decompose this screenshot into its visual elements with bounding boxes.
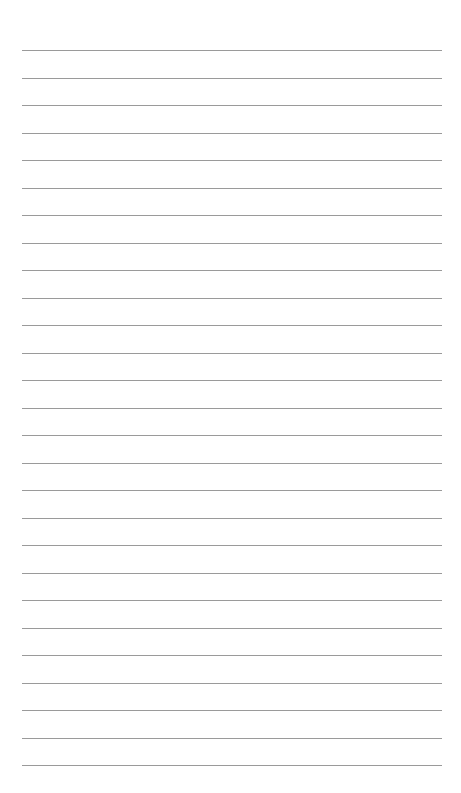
ruled-line bbox=[22, 600, 442, 601]
ruled-line bbox=[22, 215, 442, 216]
ruled-line bbox=[22, 628, 442, 629]
ruled-line bbox=[22, 518, 442, 519]
ruled-line bbox=[22, 78, 442, 79]
ruled-line bbox=[22, 380, 442, 381]
lined-paper-page bbox=[0, 0, 461, 793]
ruled-line bbox=[22, 408, 442, 409]
ruled-line bbox=[22, 710, 442, 711]
ruled-line bbox=[22, 298, 442, 299]
ruled-line bbox=[22, 353, 442, 354]
ruled-line bbox=[22, 765, 442, 766]
ruled-line bbox=[22, 188, 442, 189]
ruled-line bbox=[22, 270, 442, 271]
ruled-line bbox=[22, 435, 442, 436]
ruled-line bbox=[22, 573, 442, 574]
ruled-line bbox=[22, 738, 442, 739]
ruled-line bbox=[22, 545, 442, 546]
ruled-line bbox=[22, 133, 442, 134]
ruled-line bbox=[22, 160, 442, 161]
ruled-line bbox=[22, 683, 442, 684]
ruled-line bbox=[22, 243, 442, 244]
ruled-line bbox=[22, 490, 442, 491]
ruled-line bbox=[22, 655, 442, 656]
ruled-line bbox=[22, 105, 442, 106]
ruled-line bbox=[22, 463, 442, 464]
ruled-line bbox=[22, 325, 442, 326]
ruled-line bbox=[22, 50, 442, 51]
